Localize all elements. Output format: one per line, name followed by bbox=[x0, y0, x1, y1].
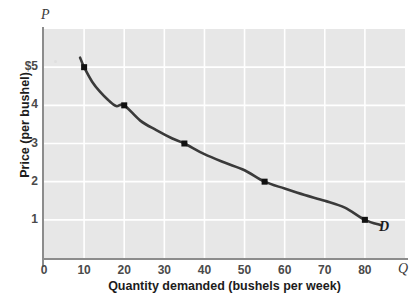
x-tick-label: 10 bbox=[69, 263, 99, 277]
demand-curve-label: D bbox=[379, 219, 389, 235]
y-axis-title: Price (per bushel) bbox=[18, 30, 32, 220]
x-axis-line bbox=[42, 258, 408, 260]
x-tick-label: 60 bbox=[270, 263, 300, 277]
plot-area bbox=[44, 29, 405, 258]
demand-curve bbox=[44, 29, 405, 258]
x-tick-label: 50 bbox=[230, 263, 260, 277]
x-tick-label: 80 bbox=[350, 263, 380, 277]
y-axis-line bbox=[42, 27, 44, 267]
scan-artifact bbox=[54, 60, 57, 63]
price-axis-symbol: P bbox=[41, 7, 50, 23]
demand-curve-figure: P Q 1234$5 01020304050607080 Price (per … bbox=[0, 0, 418, 300]
x-tick-label: 30 bbox=[149, 263, 179, 277]
x-tick-label: 0 bbox=[29, 263, 59, 277]
x-axis-title: Quantity demanded (bushels per week) bbox=[44, 279, 405, 293]
quantity-axis-symbol: Q bbox=[398, 261, 408, 277]
x-tick-label: 20 bbox=[109, 263, 139, 277]
x-tick-label: 70 bbox=[310, 263, 340, 277]
x-tick-label: 40 bbox=[189, 263, 219, 277]
